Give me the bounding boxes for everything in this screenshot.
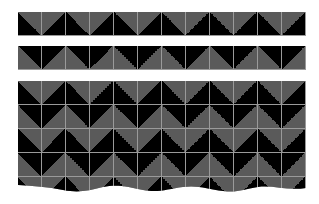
triangle-tile (114, 105, 138, 129)
triangle-tile (18, 81, 42, 105)
triangle-tile (114, 46, 138, 70)
triangle-tile (210, 129, 234, 153)
triangle-tile (90, 81, 114, 105)
triangle-tile (282, 177, 306, 196)
triangle-tile (282, 81, 306, 105)
triangle-tile (234, 12, 258, 36)
triangle-tile (162, 153, 186, 177)
triangle-tile (282, 46, 306, 70)
triangle-tile (42, 129, 66, 153)
triangle-tile (234, 105, 258, 129)
triangle-tile (162, 105, 186, 129)
triangle-tile (186, 46, 210, 70)
triangle-tile (138, 105, 162, 129)
triangle-tile (90, 105, 114, 129)
triangle-tile (18, 105, 42, 129)
triangle-tile (210, 12, 234, 36)
triangle-tile (18, 46, 42, 70)
tile-strip-2 (18, 46, 306, 70)
triangle-tile (234, 153, 258, 177)
triangle-tile (90, 153, 114, 177)
triangle-tile (18, 129, 42, 153)
triangle-tile (66, 46, 90, 70)
triangle-tile (234, 46, 258, 70)
triangle-tile (114, 81, 138, 105)
triangle-tile (114, 12, 138, 36)
tile-strip-1 (18, 12, 306, 36)
triangle-tile (162, 12, 186, 36)
tile-row (18, 81, 306, 105)
triangle-tile (258, 153, 282, 177)
triangle-tile (90, 46, 114, 70)
tile-row (18, 153, 306, 177)
triangle-tile (258, 81, 282, 105)
triangle-tile (234, 129, 258, 153)
triangle-tile (282, 12, 306, 36)
triangle-tile (66, 177, 90, 196)
triangle-tile (186, 105, 210, 129)
triangle-tile (186, 153, 210, 177)
triangle-tile (114, 153, 138, 177)
triangle-tile (138, 177, 162, 196)
triangle-tile (42, 105, 66, 129)
triangle-tile (18, 177, 42, 196)
tile-block (18, 81, 306, 196)
triangle-tile (234, 81, 258, 105)
triangle-tile (186, 129, 210, 153)
triangle-tile (90, 129, 114, 153)
triangle-tile (42, 81, 66, 105)
triangle-tile (90, 177, 114, 196)
triangle-tile (138, 129, 162, 153)
triangle-tile (66, 81, 90, 105)
triangle-tile (258, 129, 282, 153)
triangle-tile (186, 81, 210, 105)
triangle-tile (42, 177, 66, 196)
triangle-tile (162, 81, 186, 105)
triangle-tile (138, 12, 162, 36)
triangle-tile (186, 12, 210, 36)
triangle-tile (210, 81, 234, 105)
tile-row (18, 129, 306, 153)
triangle-tile (114, 177, 138, 196)
triangle-tile (66, 153, 90, 177)
triangle-tile (282, 105, 306, 129)
triangle-tile (42, 153, 66, 177)
triangle-tile (282, 129, 306, 153)
triangle-tile (210, 153, 234, 177)
triangle-tile (162, 129, 186, 153)
triangle-tile (66, 12, 90, 36)
triangle-tile (138, 153, 162, 177)
triangle-tile (66, 129, 90, 153)
triangle-tile (18, 153, 42, 177)
triangle-tile (162, 46, 186, 70)
triangle-tile (42, 46, 66, 70)
triangle-tile (258, 12, 282, 36)
triangle-tile (258, 46, 282, 70)
triangle-tile (114, 129, 138, 153)
triangle-tile (210, 177, 234, 196)
triangle-tile (66, 105, 90, 129)
triangle-tile (234, 177, 258, 196)
triangle-tile (210, 105, 234, 129)
tile-row (18, 177, 306, 196)
triangle-tile (18, 12, 42, 36)
triangle-tile (162, 177, 186, 196)
triangle-tile (138, 81, 162, 105)
triangle-tile (258, 105, 282, 129)
triangle-tile (258, 177, 282, 196)
triangle-tile (282, 153, 306, 177)
triangle-tile (138, 46, 162, 70)
triangle-tile (90, 12, 114, 36)
triangle-tile (210, 46, 234, 70)
triangle-tile (42, 12, 66, 36)
triangle-tile (186, 177, 210, 196)
tile-row (18, 105, 306, 129)
